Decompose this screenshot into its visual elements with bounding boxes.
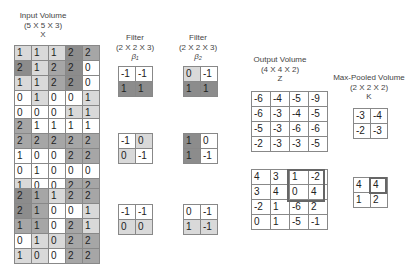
pooled-symbol-label: K: [326, 92, 412, 102]
cell: 0: [15, 234, 32, 249]
cell: -6: [290, 122, 309, 137]
cell: 1: [271, 215, 290, 230]
cell: 2: [83, 249, 100, 264]
cell: 1: [32, 219, 49, 234]
cell: -1: [119, 205, 136, 220]
filter1-channel-2: -10 0-1: [118, 133, 153, 164]
cell: -1: [201, 205, 218, 220]
cell: 0: [49, 204, 66, 219]
cell: 1: [184, 149, 201, 164]
cell: 2: [49, 76, 66, 91]
cell: -4: [371, 109, 388, 124]
cell: 3: [271, 170, 290, 185]
cell: -2: [252, 137, 271, 152]
cell: 0: [15, 91, 32, 106]
cell: 0: [136, 134, 153, 149]
cell: 0: [66, 204, 83, 219]
cell: 0: [32, 249, 49, 264]
cell: 4: [309, 185, 328, 200]
cell: -5: [290, 92, 309, 107]
cell: 1: [32, 76, 49, 91]
filter1-title-label: Filter: [112, 33, 158, 43]
filter2-title: Filter (2 X 2 X 3) β₂: [175, 33, 221, 62]
pooled-title-label: Max-Pooled Volume: [326, 73, 412, 83]
filter2-title-label: Filter: [175, 33, 221, 43]
cell: 2: [83, 134, 100, 149]
cell: 0: [32, 149, 49, 164]
pooled-dims-label: (2 X 2 X 2): [326, 83, 412, 93]
cell: 2: [66, 76, 83, 91]
cell: -1: [136, 149, 153, 164]
cell: -9: [309, 92, 328, 107]
cell: 2: [66, 249, 83, 264]
input-title-label: Input Volume: [8, 11, 78, 21]
cell: 4: [271, 185, 290, 200]
cell: -1: [119, 134, 136, 149]
cell: 2: [66, 234, 83, 249]
cell: -6: [252, 107, 271, 122]
cell: 0: [119, 149, 136, 164]
cell: -1: [136, 67, 153, 82]
cell: 2: [66, 134, 83, 149]
cell: 1: [83, 119, 100, 134]
cell: 1: [83, 204, 100, 219]
cell: 0: [184, 67, 201, 82]
cell: 1: [136, 82, 153, 97]
cell: -5: [309, 137, 328, 152]
cell: 1: [49, 119, 66, 134]
cell: 1: [83, 219, 100, 234]
cell: 1: [201, 82, 218, 97]
input-channel-3: 21122 21001 11021 01022 10022: [14, 188, 100, 264]
cell: 1: [290, 170, 309, 185]
cell: 0: [252, 215, 271, 230]
cell: 0: [66, 91, 83, 106]
cell: 0: [49, 219, 66, 234]
cell: -6: [290, 200, 309, 215]
cell: 0: [66, 164, 83, 179]
cell: 4: [354, 178, 371, 193]
filter2-channel-3: 0-1 1-1: [183, 204, 218, 235]
cell: 0: [83, 61, 100, 76]
cell: 2: [83, 234, 100, 249]
filter1-channel-1: -1-1 11: [118, 66, 153, 97]
cell: -1: [119, 67, 136, 82]
cell: 2: [371, 193, 388, 208]
cell: 1: [32, 234, 49, 249]
cell: 2: [66, 219, 83, 234]
cell: -5: [309, 107, 328, 122]
cell: 3: [252, 185, 271, 200]
cell: -2: [309, 170, 328, 185]
output-title-label: Output Volume: [245, 55, 315, 65]
cell: 1: [83, 91, 100, 106]
cell: 2: [15, 204, 32, 219]
cell: 1: [184, 134, 201, 149]
cell: -4: [271, 92, 290, 107]
cell: 0: [49, 91, 66, 106]
cell: 1: [49, 46, 66, 61]
cell: 1: [32, 189, 49, 204]
cell: 2: [49, 134, 66, 149]
cell: 0: [290, 185, 309, 200]
cell: 2: [15, 134, 32, 149]
cell: 0: [49, 164, 66, 179]
cell: 0: [49, 234, 66, 249]
cell: 1: [119, 82, 136, 97]
cell: 4: [252, 170, 271, 185]
cell: -1: [201, 149, 218, 164]
output-channel-2: 431-2 3404 -21-62 01-5-1: [251, 169, 328, 230]
cell: -6: [309, 122, 328, 137]
cell: 2: [83, 46, 100, 61]
cell: 2: [66, 149, 83, 164]
filter1-title: Filter (2 X 2 X 3) β₁: [112, 33, 158, 62]
cell: 2: [15, 189, 32, 204]
cell: -1: [201, 220, 218, 235]
cell: 2: [15, 119, 32, 134]
cell: 1: [32, 46, 49, 61]
cell: -3: [290, 137, 309, 152]
cell: 2: [15, 61, 32, 76]
cell: 0: [119, 220, 136, 235]
cell: 1: [15, 76, 32, 91]
cell: 4: [371, 178, 388, 193]
input-channel-1: 11122 21220 11220 01001 00011: [14, 45, 100, 121]
cell: 0: [136, 220, 153, 235]
